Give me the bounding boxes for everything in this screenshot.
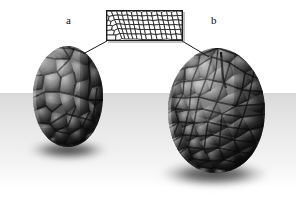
label-b: b — [211, 15, 217, 26]
egg-b-cells — [160, 42, 276, 182]
egg-a-cells — [26, 38, 110, 158]
egg-b — [160, 42, 276, 182]
cellular-texture-inset — [106, 10, 183, 41]
voronoi-pattern — [107, 11, 182, 40]
label-a: a — [66, 15, 71, 26]
figure-canvas: a b — [0, 0, 296, 199]
egg-a — [26, 38, 110, 158]
